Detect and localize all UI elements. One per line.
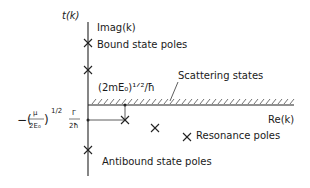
hatch-mark	[158, 99, 162, 104]
hatch-mark	[164, 99, 168, 104]
hatch-mark	[152, 99, 156, 104]
hatch-mark	[176, 99, 180, 104]
width-expression: −( μ 2E₀ ) 1/2 Γ 2ħ	[17, 107, 80, 130]
imaginary-axis-label: Imag(k)	[97, 22, 136, 33]
hatch-mark	[188, 99, 192, 104]
hatch-mark	[284, 99, 288, 104]
resonance-pole	[183, 133, 191, 141]
svg-text:Γ: Γ	[72, 109, 76, 117]
hatch-mark	[266, 99, 270, 104]
hatch-mark	[200, 99, 204, 104]
hatch-mark	[194, 99, 198, 104]
svg-text:): )	[44, 113, 49, 127]
bound-state-poles-label: Bound state poles	[97, 39, 187, 50]
hatch-mark	[122, 99, 126, 104]
hatch-mark	[134, 99, 138, 104]
function-label: t(k)	[62, 10, 80, 21]
hatch-mark	[104, 99, 108, 104]
scattering-leader-line	[170, 82, 178, 101]
hatch-mark	[212, 99, 216, 104]
threshold-label: (2mE₀)¹ᐟ²/ħ	[98, 82, 155, 93]
resonance-pole	[151, 124, 159, 132]
hatch-mark	[224, 99, 228, 104]
hatch-mark	[110, 99, 114, 104]
hatch-mark	[98, 99, 102, 104]
hatch-mark	[254, 99, 258, 104]
resonance-poles-label: Resonance poles	[196, 130, 280, 141]
hatch-mark	[128, 99, 132, 104]
hatch-mark	[116, 99, 120, 104]
svg-text:2ħ: 2ħ	[69, 122, 78, 130]
svg-text:2E₀: 2E₀	[29, 122, 41, 130]
hatch-mark	[290, 99, 294, 104]
hatch-mark	[242, 99, 246, 104]
hatch-mark	[260, 99, 264, 104]
hatch-mark	[218, 99, 222, 104]
hatch-mark	[206, 99, 210, 104]
hatch-mark	[230, 99, 234, 104]
hatch-mark	[182, 99, 186, 104]
pole-diagram: t(k) Imag(k) Re(k) Bound state poles (2m…	[0, 0, 310, 188]
svg-text:μ: μ	[33, 109, 38, 117]
hatch-mark	[146, 99, 150, 104]
hatch-mark	[248, 99, 252, 104]
svg-text:1/2: 1/2	[51, 107, 62, 115]
hatch-mark	[278, 99, 282, 104]
antibound-state-poles-label: Antibound state poles	[102, 156, 212, 167]
hatch-mark	[272, 99, 276, 104]
hatch-mark	[92, 99, 96, 104]
scattering-cut-hatching	[92, 99, 294, 104]
real-axis-label: Re(k)	[268, 114, 294, 125]
scattering-states-label: Scattering states	[178, 70, 263, 81]
hatch-mark	[140, 99, 144, 104]
hatch-mark	[236, 99, 240, 104]
